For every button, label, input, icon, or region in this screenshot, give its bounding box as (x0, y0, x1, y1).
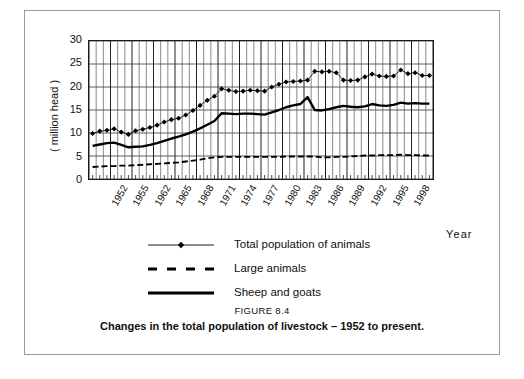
data-point-marker (226, 88, 231, 93)
x-tick-label: 1971 (217, 183, 238, 208)
data-point-marker (348, 78, 353, 83)
data-point-marker (176, 116, 181, 121)
legend-item: Sheep and goats (142, 281, 422, 305)
y-tick-label: 10 (56, 127, 82, 138)
data-point-marker (384, 74, 389, 79)
x-tick-label: 1992 (368, 183, 389, 208)
data-point-marker (377, 73, 382, 78)
x-axis-title: Year (446, 228, 473, 240)
data-point-marker (162, 119, 167, 124)
data-point-marker (355, 78, 360, 83)
data-point-marker (283, 79, 288, 84)
data-point-marker (240, 89, 245, 94)
data-point-marker (147, 125, 152, 130)
data-point-marker (111, 126, 116, 131)
legend-label: Total population of animals (234, 238, 370, 250)
x-tick-label: 1998 (411, 183, 432, 208)
legend-item: Total population of animals (142, 233, 422, 257)
data-point-marker (362, 74, 367, 79)
plot-area (88, 40, 434, 180)
data-point-marker (126, 132, 131, 137)
legend-swatch-line-marker-diamond (142, 233, 220, 257)
data-point-marker (248, 88, 253, 93)
y-tick-label: 5 (56, 151, 82, 162)
data-point-marker (97, 129, 102, 134)
data-point-marker (133, 128, 138, 133)
legend-label: Large animals (234, 262, 306, 274)
x-tick-label: 1955 (130, 183, 151, 208)
x-tick-label: 1986 (325, 183, 346, 208)
legend-swatch-dashed-line (142, 257, 220, 281)
x-tick-label: 1968 (195, 183, 216, 208)
y-axis-title-container: ( million head ) (30, 40, 54, 180)
data-point-marker (276, 82, 281, 87)
data-point-marker (319, 69, 324, 74)
data-point-marker (405, 71, 410, 76)
x-tick-label: 1952 (109, 183, 130, 208)
legend-swatch-thick-solid-line (142, 281, 220, 305)
data-point-marker (197, 103, 202, 108)
series-large-animals (93, 155, 430, 167)
data-point-marker (104, 128, 109, 133)
data-point-marker (255, 88, 260, 93)
data-point-marker (269, 84, 274, 89)
data-point-marker (369, 72, 374, 77)
y-axis-tick-labels: 302520151050 (52, 40, 82, 180)
data-point-marker (154, 123, 159, 128)
data-point-marker (326, 69, 331, 74)
x-tick-label: 1980 (282, 183, 303, 208)
data-series-layer (89, 41, 433, 179)
data-point-marker (205, 98, 210, 103)
figure-number: FIGURE 8.4 (24, 305, 500, 316)
data-point-marker (420, 73, 425, 78)
x-tick-label: 1965 (174, 183, 195, 208)
x-tick-label: 1983 (303, 183, 324, 208)
x-tick-label: 1989 (347, 183, 368, 208)
x-tick-label: 1977 (260, 183, 281, 208)
series-total-population-of-animals (90, 67, 432, 137)
data-point-marker (140, 127, 145, 132)
chart-figure: ( million head ) 302520151050 1952195519… (0, 0, 524, 379)
data-point-marker (291, 79, 296, 84)
data-point-marker (119, 130, 124, 135)
data-point-marker (90, 131, 95, 136)
y-tick-label: 25 (56, 57, 82, 68)
data-point-marker (190, 108, 195, 113)
legend-label: Sheep and goats (234, 286, 321, 298)
data-point-marker (262, 89, 267, 94)
figure-title: Changes in the total population of lives… (24, 320, 500, 332)
data-point-marker (233, 89, 238, 94)
legend-item: Large animals (142, 257, 422, 281)
figure-caption: FIGURE 8.4 Changes in the total populati… (24, 305, 500, 332)
series-sheep-and-goats (93, 97, 430, 147)
data-point-marker (298, 78, 303, 83)
data-point-marker (427, 73, 432, 78)
x-tick-label: 1962 (152, 183, 173, 208)
data-point-marker (412, 70, 417, 75)
y-tick-label: 15 (56, 104, 82, 115)
data-point-marker (169, 117, 174, 122)
x-tick-label: 1974 (238, 183, 259, 208)
y-tick-label: 0 (56, 174, 82, 185)
x-axis-tick-labels: 1952195519621965196819711974197719801983… (88, 183, 434, 231)
chart-legend: Total population of animalsLarge animals… (142, 233, 422, 305)
x-tick-label: 1995 (390, 183, 411, 208)
data-point-marker (183, 112, 188, 117)
y-tick-label: 30 (56, 34, 82, 45)
y-tick-label: 20 (56, 81, 82, 92)
